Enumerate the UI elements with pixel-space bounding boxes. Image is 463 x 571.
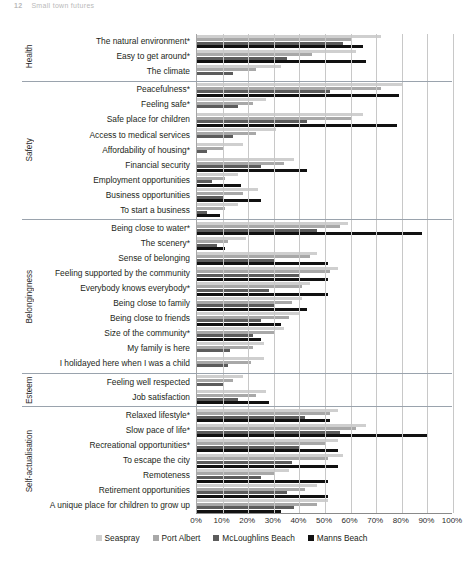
group-separator [22,373,452,374]
bar [197,207,225,210]
bar [197,199,261,202]
gridline [248,34,249,513]
category-label: Retirement opportunities [38,485,193,495]
bar [197,419,330,422]
x-tick-label: 10% [214,516,230,525]
legend-swatch [153,535,159,541]
bar [197,431,340,434]
bar [197,72,233,75]
bar [197,87,381,90]
bar [197,98,266,101]
group-label: Self-actualisation [22,408,36,513]
bar [197,255,310,258]
x-tick-label: 100% [442,516,462,525]
bar [197,457,328,460]
bar [197,232,422,235]
bar [197,394,256,397]
category-label: Feeling supported by the community [38,268,193,278]
x-tick-label: 20% [239,516,255,525]
category-label: Being close to friends [38,313,193,323]
legend-item[interactable]: McLoughlins Beach [213,533,294,543]
bar [197,442,325,445]
plot-area [196,34,453,513]
bar [197,102,253,105]
category-label: Size of the community* [38,328,193,338]
bar [197,35,381,38]
category-label: Being close to water* [38,223,193,233]
bar [197,135,233,138]
x-tick-label: 90% [418,516,434,525]
bar [197,214,220,217]
bar [197,495,328,498]
group-separator [22,406,452,407]
bar [197,331,274,334]
category-label: The natural environment* [38,36,193,46]
bar [197,338,261,341]
bar [197,301,292,304]
gridline [223,34,224,513]
bar [197,50,356,53]
legend-label: Port Albert [162,533,201,543]
bar [197,510,281,513]
grouped-bar-chart: HealthSafetyBelongingnessEsteemSelf-actu… [0,16,463,571]
legend-swatch [96,535,102,541]
bar [197,247,225,250]
bar [197,319,261,322]
legend-item[interactable]: Seaspray [96,533,140,543]
bar [197,439,338,442]
bar [197,282,310,285]
legend-item[interactable]: Manns Beach [308,533,368,543]
bar [197,383,223,386]
x-tick-label: 70% [367,516,383,525]
bar [197,65,281,68]
category-label: Easy to get around* [38,51,193,61]
bar [197,105,238,108]
category-label: Employment opportunities [38,175,193,185]
x-tick-label: 30% [265,516,281,525]
bar [197,173,238,176]
category-label: The climate [38,66,193,76]
gridline [299,34,300,513]
legend-item[interactable]: Port Albert [153,533,201,543]
bar [197,461,292,464]
group-separator [22,219,452,220]
bar [197,225,340,228]
bar [197,390,266,393]
bar [197,488,305,491]
x-tick-label: 50% [316,516,332,525]
category-label: Remoteness [38,470,193,480]
category-label: To start a business [38,205,193,215]
group-label: Safety [22,82,36,217]
category-label: Financial security [38,160,193,170]
bar [197,90,330,93]
gridline [427,34,428,513]
gridline [402,34,403,513]
bar [197,237,246,240]
bar [197,427,356,430]
bar [197,188,258,191]
bar [197,128,276,131]
bar [197,472,274,475]
group-label: Esteem [22,375,36,405]
bar [197,180,212,183]
category-label: Recreational opportunities* [38,440,193,450]
bar [197,454,343,457]
category-label: Feeling well respected [38,377,193,387]
bar [197,42,343,45]
bar [197,120,307,123]
bar [197,308,307,311]
bar [197,323,281,326]
bar [197,480,328,483]
bar [197,293,328,296]
bar [197,211,207,214]
bar [197,499,328,502]
bar [197,169,307,172]
category-label: Affordability of housing* [38,145,193,155]
bar [197,165,261,168]
gridline [376,34,377,513]
bar [197,192,243,195]
x-tick-label: 40% [290,516,306,525]
bar [197,357,264,360]
bar [197,327,284,330]
bar [197,416,305,419]
